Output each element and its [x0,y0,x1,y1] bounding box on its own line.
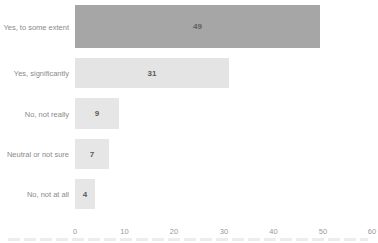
category-label: Yes, to some extent [3,23,69,32]
category-label: Neutral or not sure [7,150,69,159]
footer-note [8,238,368,241]
x-tick-label: 10 [120,227,128,236]
bar-no-not-really: 9 [75,98,119,129]
bar-value-label: 7 [90,150,94,159]
bar-no-not-at-all: 4 [75,179,95,209]
bar-yes-significantly: 31 [75,58,229,88]
horizontal-bar-chart: Yes, to some extent Yes, significantly N… [0,0,378,243]
bar-value-label: 9 [95,109,99,118]
x-tick-label: 50 [319,227,327,236]
x-tick-label: 30 [220,227,228,236]
x-tick-label: 60 [368,227,376,236]
x-tick-label: 20 [170,227,178,236]
bar-value-label: 31 [148,69,157,78]
x-tick-label: 0 [73,227,77,236]
bar-value-label: 49 [193,22,202,31]
bar-neutral-or-not-sure: 7 [75,139,109,169]
category-label: Yes, significantly [14,69,69,78]
bar-value-label: 4 [83,190,87,199]
x-tick-label: 40 [269,227,277,236]
bar-yes-to-some-extent: 49 [75,5,320,48]
category-label: No, not at all [27,190,69,199]
category-label: No, not really [25,109,69,118]
